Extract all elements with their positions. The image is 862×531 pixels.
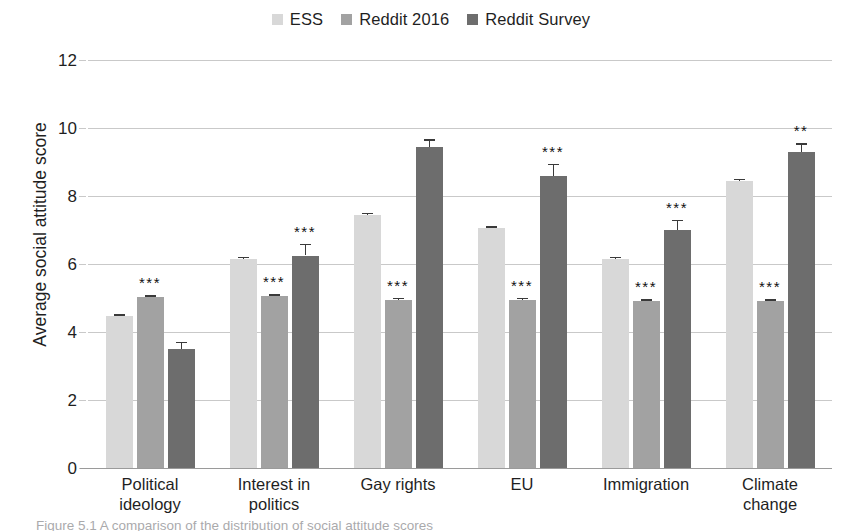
legend-label: Reddit Survey <box>485 10 590 29</box>
error-bar-cap <box>517 298 528 300</box>
significance-marker: ** <box>794 123 809 138</box>
error-bar-cap <box>734 179 745 181</box>
bar[interactable] <box>385 300 412 468</box>
bar-slot <box>354 60 381 468</box>
category-label: Climatechange <box>708 474 832 514</box>
bar[interactable] <box>664 230 691 468</box>
bar-slot: *** <box>385 60 412 468</box>
significance-marker: *** <box>387 278 409 293</box>
legend-label: Reddit 2016 <box>359 10 449 29</box>
y-tick-label: 10 <box>58 120 77 137</box>
bar[interactable] <box>292 256 319 469</box>
error-bar-cap <box>300 244 311 246</box>
y-tick-mark <box>79 264 86 265</box>
bar-slot: *** <box>509 60 536 468</box>
bar[interactable] <box>168 349 195 468</box>
bar[interactable] <box>261 296 288 468</box>
error-bar <box>305 244 307 256</box>
error-bar-cap <box>641 299 652 301</box>
bar-group: ****** <box>460 60 584 468</box>
figure-caption: Figure 5.1 A comparison of the distribut… <box>36 518 826 531</box>
significance-marker: *** <box>511 278 533 293</box>
category-label: Immigration <box>584 474 708 494</box>
y-tick-label: 8 <box>68 188 77 205</box>
category-label: Gay rights <box>336 474 460 494</box>
bar[interactable] <box>540 176 567 468</box>
error-bar-cap <box>610 257 621 259</box>
bar-slot <box>726 60 753 468</box>
category-label-line: Interest in <box>212 474 336 494</box>
bar[interactable] <box>726 181 753 468</box>
error-bar-cap <box>672 220 683 222</box>
error-bar-cap <box>796 143 807 145</box>
bar-slot: *** <box>137 60 164 468</box>
bar[interactable] <box>602 259 629 468</box>
significance-marker: *** <box>542 144 564 159</box>
bar-slot <box>168 60 195 468</box>
bar[interactable] <box>106 316 133 468</box>
bar-group: *** <box>336 60 460 468</box>
category-label-line: Political <box>88 474 212 494</box>
category-label: EU <box>460 474 584 494</box>
y-tick-label: 2 <box>68 392 77 409</box>
bar[interactable] <box>757 301 784 468</box>
legend-entry-reddit-2016: Reddit 2016 <box>341 10 449 29</box>
bar-slot: *** <box>757 60 784 468</box>
legend-entry-ess: ESS <box>272 10 323 29</box>
legend-swatch-icon <box>341 14 352 25</box>
y-tick-label: 0 <box>68 460 77 477</box>
bar[interactable] <box>416 147 443 468</box>
bar[interactable] <box>230 259 257 468</box>
bar-slot: *** <box>292 60 319 468</box>
error-bar-cap <box>269 294 280 296</box>
legend-swatch-icon <box>467 14 478 25</box>
plot-area: 024681012 ***************************** <box>88 60 832 468</box>
bar-slot <box>478 60 505 468</box>
y-tick-mark <box>79 332 86 333</box>
y-tick-mark <box>79 196 86 197</box>
bar[interactable] <box>788 152 815 468</box>
error-bar-cap <box>238 257 249 259</box>
bar[interactable] <box>354 215 381 468</box>
legend-swatch-icon <box>272 14 283 25</box>
bar-slot <box>416 60 443 468</box>
category-label-line: Climate <box>708 474 832 494</box>
legend-label: ESS <box>290 10 323 29</box>
y-tick-label: 4 <box>68 324 77 341</box>
axis-baseline <box>80 468 832 469</box>
error-bar-cap <box>114 314 125 316</box>
bar-slot: *** <box>664 60 691 468</box>
chart-legend: ESS Reddit 2016 Reddit Survey <box>0 10 862 29</box>
bar-slot <box>106 60 133 468</box>
legend-entry-reddit-survey: Reddit Survey <box>467 10 590 29</box>
bar-slot <box>230 60 257 468</box>
bar-slot: *** <box>633 60 660 468</box>
bar[interactable] <box>137 297 164 468</box>
error-bar-cap <box>486 226 497 228</box>
error-bar-cap <box>424 139 435 141</box>
bar-group: *** <box>88 60 212 468</box>
bar[interactable] <box>478 228 505 468</box>
y-axis-title: Average social attitude score <box>30 25 51 445</box>
error-bar <box>553 164 555 176</box>
bar-slot: *** <box>261 60 288 468</box>
significance-marker: *** <box>263 274 285 289</box>
significance-marker: *** <box>294 224 316 239</box>
y-tick-label: 6 <box>68 256 77 273</box>
error-bar-cap <box>362 213 373 215</box>
bar-chart: Average social attitude score 024681012 … <box>0 44 862 495</box>
y-tick-mark <box>79 128 86 129</box>
error-bar-cap <box>548 164 559 166</box>
bar-group: ****** <box>212 60 336 468</box>
bar[interactable] <box>509 300 536 468</box>
category-label-line: ideology <box>88 494 212 514</box>
bar[interactable] <box>633 301 660 468</box>
bar-group: ****** <box>584 60 708 468</box>
bar-slot <box>602 60 629 468</box>
y-tick-mark <box>79 60 86 61</box>
error-bar-cap <box>765 299 776 301</box>
error-bar-cap <box>393 298 404 300</box>
category-label-line: Gay rights <box>336 474 460 494</box>
bar-group: ***** <box>708 60 832 468</box>
significance-marker: *** <box>759 279 781 294</box>
